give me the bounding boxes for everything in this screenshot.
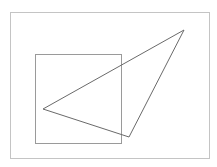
diagram-canvas (0, 0, 217, 167)
outer-frame-rect (11, 13, 210, 159)
triangle-shape (43, 30, 184, 137)
